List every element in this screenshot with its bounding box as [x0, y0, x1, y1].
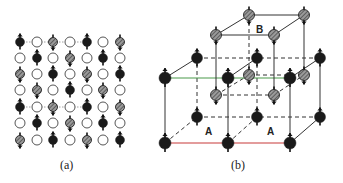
- spin-down-atom: [83, 133, 92, 149]
- empty-site-circle: [115, 118, 125, 128]
- spin-down-atom: [66, 51, 75, 67]
- empty-site-circle: [115, 53, 125, 63]
- spin-down-atom-b: [211, 87, 222, 105]
- sublattice-label-a: A: [205, 126, 212, 137]
- panel-b-3d-lattice: BAA: [159, 7, 326, 153]
- empty-site-circle: [48, 85, 58, 95]
- spin-up-atom-a: [192, 49, 203, 67]
- spin-down-atom: [99, 83, 108, 99]
- spin-up-atom: [49, 132, 58, 148]
- spin-down-atom: [16, 133, 25, 149]
- empty-site-circle: [32, 69, 42, 79]
- spin-up-atom-a: [159, 68, 171, 87]
- empty-site-circle: [65, 102, 75, 112]
- spin-up-atom: [116, 132, 125, 148]
- panel-a-2d-lattice: [15, 34, 125, 149]
- empty-site-circle: [15, 53, 25, 63]
- sublattice-label-b: B: [256, 24, 263, 35]
- empty-site-circle: [98, 37, 108, 47]
- empty-site-circle: [82, 85, 92, 95]
- empty-site-circle: [98, 102, 108, 112]
- empty-site-circle: [32, 37, 42, 47]
- spin-down-atom: [66, 116, 75, 132]
- spin-down-atom-b: [269, 27, 280, 45]
- empty-site-circle: [32, 135, 42, 145]
- sublattice-label-a: A: [267, 126, 274, 137]
- spin-up-atom: [116, 66, 125, 82]
- spin-up-atom-a: [159, 133, 171, 152]
- spin-up-atom-a: [192, 108, 203, 126]
- spin-up-atom: [83, 99, 92, 115]
- spin-up-atom: [16, 99, 25, 115]
- spin-down-atom: [116, 35, 125, 51]
- spin-down-atom-b: [211, 27, 222, 45]
- spin-up-atom: [83, 34, 92, 50]
- empty-site-circle: [48, 118, 58, 128]
- empty-site-circle: [15, 85, 25, 95]
- spin-up-atom-a: [284, 68, 296, 87]
- empty-site-circle: [82, 118, 92, 128]
- spin-up-atom: [66, 82, 75, 98]
- empty-site-circle: [82, 53, 92, 63]
- spin-up-atom-a: [252, 49, 263, 67]
- spin-down-atom: [116, 100, 125, 116]
- spin-up-atom: [99, 50, 108, 66]
- spin-up-atom-a: [315, 108, 326, 126]
- spin-down-atom: [33, 83, 42, 99]
- spin-down-atom-b: [244, 7, 255, 25]
- spin-up-atom: [49, 66, 58, 82]
- spin-up-atom: [16, 34, 25, 50]
- panel-a-caption: (a): [60, 158, 73, 173]
- empty-site-circle: [65, 69, 75, 79]
- spin-down-atom-b: [299, 7, 310, 25]
- empty-site-circle: [65, 37, 75, 47]
- spin-down-atom-b: [269, 87, 280, 105]
- spin-up-atom-a: [222, 68, 234, 87]
- spin-up-atom-a: [315, 49, 326, 67]
- empty-site-circle: [115, 85, 125, 95]
- empty-site-circle: [15, 118, 25, 128]
- empty-site-circle: [98, 69, 108, 79]
- empty-site-circle: [48, 53, 58, 63]
- panel-b-caption: (b): [231, 158, 245, 173]
- spin-down-atom: [49, 35, 58, 51]
- spin-up-atom: [99, 115, 108, 131]
- spin-down-atom: [16, 67, 25, 83]
- spin-down-atom: [49, 100, 58, 116]
- spin-up-atom: [33, 115, 42, 131]
- spin-down-atom-b: [299, 67, 310, 85]
- empty-site-circle: [32, 102, 42, 112]
- spin-up-atom-a: [284, 133, 296, 152]
- spin-down-atom-b: [244, 67, 255, 85]
- spin-up-atom-a: [252, 108, 263, 126]
- empty-site-circle: [98, 135, 108, 145]
- magnetic-lattice-figure: BAA: [0, 0, 343, 183]
- spin-up-atom: [33, 50, 42, 66]
- spin-down-atom: [83, 67, 92, 83]
- spin-up-atom-a: [222, 133, 234, 152]
- empty-site-circle: [65, 135, 75, 145]
